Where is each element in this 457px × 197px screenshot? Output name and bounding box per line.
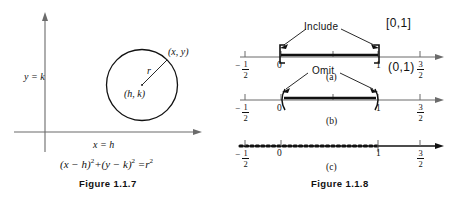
minus-sign-c: −: [235, 149, 240, 159]
interval-notation-b: (0,1): [388, 60, 415, 74]
equation-plus: +: [94, 158, 101, 170]
three-half-denominator-c: 2: [417, 160, 423, 169]
three-half-numerator-a: 3: [417, 60, 423, 69]
neg-half-numerator-b: 1: [242, 103, 248, 112]
equation-term-a: (x − h): [60, 158, 91, 170]
tick-label-zero-b: 0: [277, 103, 282, 113]
figure-page: y = k x = h (x, y) r (h, k) (x − h)2+(y …: [0, 0, 457, 197]
tick-label-three-half-b: 3 2: [417, 103, 424, 122]
circle-center-label: (h, k): [124, 88, 145, 99]
equation-term-b: (y − k): [102, 158, 132, 170]
radius-segment: [142, 60, 167, 85]
number-line-a: [240, 29, 444, 63]
circle-point-label: (x, y): [168, 46, 189, 57]
equation-exp-b: 2: [132, 157, 136, 165]
center-point: [141, 84, 143, 86]
minus-sign-b: −: [235, 103, 240, 113]
vertical-axis: [42, 12, 48, 152]
neg-half-denominator-a: 2: [242, 71, 248, 80]
tick-label-zero-a: 0: [277, 60, 282, 70]
panel-sublabel-b: (b): [326, 116, 337, 126]
tick-label-three-half-a: 3 2: [417, 60, 424, 79]
horizontal-axis-label: x = h: [93, 139, 114, 150]
radius-label: r: [147, 65, 151, 76]
panel-sublabel-c: (c): [326, 162, 337, 172]
omit-annotation-label: Omit: [312, 65, 334, 76]
neg-half-denominator-c: 2: [242, 160, 248, 169]
interval-notation-a: [0,1]: [386, 16, 411, 30]
tick-label-one-c: 1: [376, 148, 381, 158]
neg-half-denominator-b: 2: [242, 114, 248, 123]
equation-exp-rhs: 2: [150, 157, 154, 165]
three-half-numerator-b: 3: [417, 103, 423, 112]
number-line-c: [240, 140, 444, 152]
horizontal-axis: [14, 129, 202, 135]
figure-1-1-7-panel: y = k x = h (x, y) r (h, k) (x − h)2+(y …: [0, 0, 228, 197]
tick-label-three-half-c: 3 2: [417, 149, 424, 168]
tick-label-one-b: 1: [376, 103, 381, 113]
vertical-axis-label: y = k: [24, 71, 45, 82]
figure-1-1-7-caption: Figure 1.1.7: [79, 178, 137, 189]
number-line-b: [240, 73, 444, 110]
tick-label-zero-c: 0: [277, 148, 282, 158]
neg-half-numerator-c: 1: [242, 149, 248, 158]
minus-sign-a: −: [235, 60, 240, 70]
three-half-numerator-c: 3: [417, 149, 423, 158]
three-half-denominator-b: 2: [417, 114, 423, 123]
figure-1-1-8-panel: Include [0,1] − 1 2 0 1 3 2 (a) Omit (0,…: [228, 0, 457, 197]
tick-label-one-a: 1: [376, 60, 381, 70]
three-half-denominator-a: 2: [417, 71, 423, 80]
figure-1-1-8-caption: Figure 1.1.8: [311, 178, 369, 189]
include-annotation-label: Include: [304, 21, 338, 32]
neg-half-numerator-a: 1: [242, 60, 248, 69]
circle-equation: (x − h)2+(y − k)2 =r2: [60, 157, 153, 170]
